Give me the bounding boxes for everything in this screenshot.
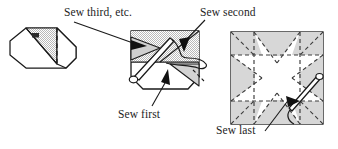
figure-canvas: Sew third, etc. Sew second Sew first Sew… (0, 0, 338, 149)
label-sew-third: Sew third, etc. (64, 6, 132, 18)
label-sew-last: Sew last (216, 124, 255, 136)
panel-right-group (231, 32, 323, 124)
leader-sew-third (74, 22, 133, 43)
right-fold-wedge (57, 28, 76, 68)
sewing-diagram-svg (0, 0, 338, 149)
pin-marker (32, 33, 39, 38)
needle-eye (129, 76, 137, 83)
label-sew-first: Sew first (118, 108, 160, 120)
label-sew-second: Sew second (200, 6, 256, 18)
panel-left-group (10, 28, 76, 68)
block-needle-eye (316, 74, 323, 80)
